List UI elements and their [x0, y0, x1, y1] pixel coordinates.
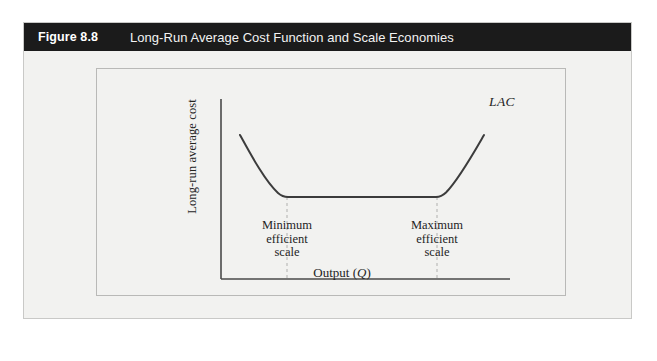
- y-axis-label: Long-run average cost: [185, 82, 200, 232]
- figure-number-label: Figure 8.8: [38, 30, 130, 44]
- figure-title: Long-Run Average Cost Function and Scale…: [130, 30, 454, 45]
- min-scale-line2: efficient: [232, 233, 342, 247]
- max-scale-line1: Maximum: [382, 219, 492, 233]
- x-axis-label-suffix: ): [366, 265, 370, 280]
- plot-panel: Long-run average cost Minimum efficient …: [96, 68, 566, 296]
- figure-container: Figure 8.8 Long-Run Average Cost Functio…: [23, 22, 632, 319]
- figure-root: Figure 8.8 Long-Run Average Cost Functio…: [0, 0, 657, 361]
- figure-header-bar: Figure 8.8 Long-Run Average Cost Functio…: [24, 23, 631, 51]
- x-axis-label: Output (Q): [257, 265, 427, 281]
- lac-curve-label: LAC: [489, 94, 515, 110]
- min-scale-line1: Minimum: [232, 219, 342, 233]
- max-scale-line2: efficient: [382, 233, 492, 247]
- min-scale-line3: scale: [232, 246, 342, 260]
- x-axis-label-variable: Q: [357, 265, 366, 280]
- lac-curve: [240, 135, 484, 197]
- tick-label-maximum-efficient-scale: Maximum efficient scale: [382, 219, 492, 260]
- y-axis-label-container: Long-run average cost: [119, 97, 139, 257]
- max-scale-line3: scale: [382, 246, 492, 260]
- tick-label-minimum-efficient-scale: Minimum efficient scale: [232, 219, 342, 260]
- x-axis-label-prefix: Output (: [313, 265, 357, 280]
